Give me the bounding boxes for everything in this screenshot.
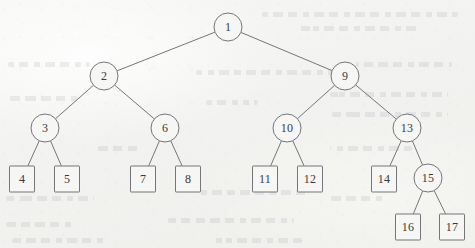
tree-node-leaf-14: 14 [371,166,397,193]
tree-node-layer: 1293610134578111214151617 [0,0,475,248]
tree-node-internal-2: 2 [90,62,119,91]
tree-node-label: 16 [402,221,414,233]
tree-node-label: 14 [378,173,390,185]
tree-node-label: 17 [446,221,458,233]
tree-node-leaf-4: 4 [9,166,35,193]
tree-node-leaf-17: 17 [439,214,465,241]
tree-node-leaf-16: 16 [395,214,421,241]
tree-node-internal-15: 15 [414,164,443,193]
tree-node-label: 15 [422,172,434,184]
tree-node-leaf-8: 8 [175,166,201,193]
tree-node-leaf-5: 5 [54,166,80,193]
tree-node-label: 8 [185,173,191,185]
tree-node-label: 3 [42,122,48,134]
tree-node-label: 12 [304,173,316,185]
tree-node-internal-3: 3 [31,114,60,143]
tree-diagram-figure: 1293610134578111214151617 [0,0,475,248]
tree-node-label: 7 [140,173,146,185]
tree-node-internal-13: 13 [393,114,422,143]
tree-node-internal-10: 10 [273,114,302,143]
tree-node-leaf-11: 11 [252,166,278,193]
tree-node-label: 5 [64,173,70,185]
tree-node-label: 11 [259,173,271,185]
tree-node-internal-9: 9 [331,62,360,91]
tree-node-label: 13 [401,122,413,134]
tree-node-label: 10 [281,122,293,134]
tree-node-label: 6 [162,122,168,134]
tree-node-leaf-12: 12 [297,166,323,193]
tree-node-label: 2 [101,70,107,82]
tree-node-internal-1: 1 [214,13,243,42]
tree-node-leaf-7: 7 [130,166,156,193]
tree-node-label: 9 [342,70,348,82]
tree-node-label: 4 [19,173,25,185]
tree-node-internal-6: 6 [151,114,180,143]
tree-node-label: 1 [225,21,231,33]
